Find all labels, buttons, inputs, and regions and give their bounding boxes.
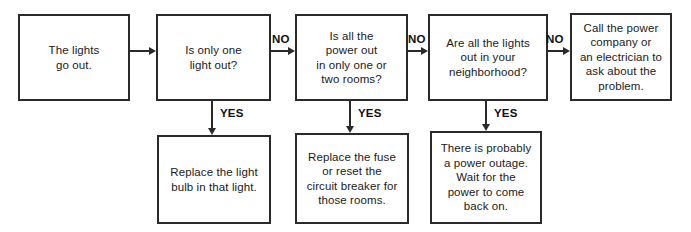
flowchart-edge-label-edge-q1-yes-to-bulb: YES xyxy=(220,107,244,119)
flowchart-node-lights-go-out: The lights go out. xyxy=(18,14,130,101)
flowchart-arrow-edge-q3-no-to-call xyxy=(548,47,570,55)
node-label: Replace the fuse or reset the circuit br… xyxy=(302,150,403,208)
flowchart-node-is-only-one-light-out: Is only one light out? xyxy=(156,14,271,101)
node-label: Replace the light bulb in that light. xyxy=(165,165,262,194)
flowchart-arrow-edge-q3-yes-to-outage xyxy=(482,101,490,131)
flowchart-edge-label-edge-q2-no-to-q3: NO xyxy=(408,33,426,45)
flowchart-arrow-edge-q1-no-to-q2 xyxy=(271,47,295,55)
flowchart-node-replace-fuse-reset-breaker: Replace the fuse or reset the circuit br… xyxy=(295,133,409,224)
node-label: Is all the power out in only one or two … xyxy=(311,29,391,87)
flowchart-edge-label-edge-q3-yes-to-outage: YES xyxy=(494,107,518,119)
node-label: Is only one light out? xyxy=(180,43,247,72)
flowchart-arrow-edge-start-to-q1 xyxy=(130,47,156,55)
flowchart-canvas: The lights go out.Is only one light out?… xyxy=(0,0,691,232)
flowchart-edge-label-edge-q2-yes-to-fuse: YES xyxy=(358,107,382,119)
flowchart-node-call-power-company: Call the power company or an electrician… xyxy=(570,13,672,101)
node-label: Are all the lights out in your neighborh… xyxy=(441,36,535,80)
node-label: Call the power company or an electrician… xyxy=(575,21,667,94)
flowchart-edge-label-edge-q3-no-to-call: NO xyxy=(546,33,564,45)
node-label: There is probably a power outage. Wait f… xyxy=(436,141,537,214)
flowchart-node-is-all-power-out-rooms: Is all the power out in only one or two … xyxy=(295,14,408,101)
flowchart-arrow-edge-q2-yes-to-fuse xyxy=(346,101,354,133)
flowchart-node-replace-light-bulb: Replace the light bulb in that light. xyxy=(157,135,271,224)
flowchart-node-are-all-lights-out-neighborhood: Are all the lights out in your neighborh… xyxy=(428,14,548,101)
node-label: The lights go out. xyxy=(44,43,105,72)
flowchart-arrow-edge-q1-yes-to-bulb xyxy=(208,101,216,135)
flowchart-arrow-edge-q2-no-to-q3 xyxy=(408,47,428,55)
flowchart-node-power-outage-wait: There is probably a power outage. Wait f… xyxy=(430,131,542,224)
flowchart-edge-label-edge-q1-no-to-q2: NO xyxy=(272,33,290,45)
